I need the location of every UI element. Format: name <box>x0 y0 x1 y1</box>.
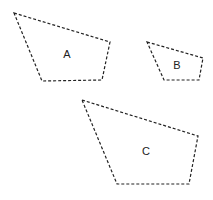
quadrilateral-b-label: B <box>173 59 180 71</box>
quadrilateral-c: C <box>82 100 198 184</box>
quadrilateral-a-label: A <box>63 48 71 60</box>
quadrilateral-a-outline <box>14 13 110 81</box>
quadrilateral-b: B <box>147 42 203 80</box>
diagram-canvas: A B C <box>0 0 213 200</box>
quadrilateral-c-label: C <box>142 145 150 157</box>
quadrilateral-c-outline <box>82 100 198 184</box>
quadrilateral-a: A <box>14 13 110 81</box>
